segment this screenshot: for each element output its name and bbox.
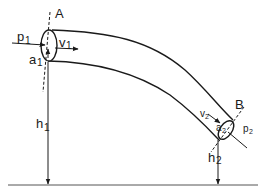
bernoulli-diagram: A B p 1 v 1 a 1 h 1 v 2 a 2 p 2 h 2: [0, 0, 263, 195]
label-h1: h: [36, 116, 43, 131]
label-p1: p: [17, 29, 24, 44]
label-h2: h: [208, 150, 215, 165]
label-v1-sub: 1: [66, 40, 72, 51]
label-a2-sub: 2: [222, 127, 226, 134]
label-a1: a: [29, 52, 37, 67]
pipe-top-edge: [52, 30, 233, 120]
section-a-ellipse: [41, 30, 57, 61]
label-section-b: B: [235, 97, 244, 112]
label-section-a: A: [55, 6, 64, 21]
label-v1: v: [59, 35, 66, 50]
p2-line: [228, 132, 247, 148]
label-p2-sub: 2: [249, 128, 253, 135]
label-a1-sub: 1: [37, 57, 43, 68]
label-p1-sub: 1: [25, 35, 31, 46]
label-v2-sub: 2: [205, 113, 209, 120]
pipe-bottom-edge: [48, 61, 219, 140]
label-h1-sub: 1: [44, 122, 50, 133]
label-h2-sub: 2: [216, 155, 222, 166]
